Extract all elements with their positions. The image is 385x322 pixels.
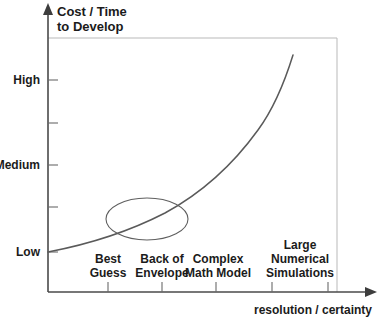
- chart-title-line2: to Develop: [57, 19, 123, 34]
- chart-title: Cost / Timeto Develop: [57, 4, 127, 34]
- y-tick-label-medium: Medium: [0, 158, 40, 172]
- highlight-ellipse-annotation: [106, 198, 188, 240]
- y-tick-label-low: Low: [0, 245, 40, 259]
- x-category-0-line2: Guess: [90, 266, 127, 280]
- x-category-1-line1: Back of: [140, 252, 183, 266]
- y-axis-arrow-icon: [43, 3, 53, 15]
- cost-time-curve: [48, 55, 293, 252]
- x-category-complex-math-model: ComplexMath Model: [180, 252, 256, 280]
- x-category-large-numerical-simulations: LargeNumericalSimulations: [258, 238, 342, 280]
- x-category-3-line3: Simulations: [266, 266, 334, 280]
- x-axis-title: resolution / certainty: [254, 303, 372, 317]
- x-category-3-line2: Numerical: [271, 252, 329, 266]
- x-category-3-line1: Large: [284, 238, 317, 252]
- x-axis-arrow-icon: [365, 287, 377, 297]
- chart-figure: Cost / Timeto Develop High Medium Low Be…: [0, 0, 385, 322]
- chart-title-line1: Cost / Time: [57, 4, 127, 19]
- x-category-0-line1: Best: [95, 252, 121, 266]
- x-category-2-line2: Math Model: [185, 266, 251, 280]
- x-category-2-line1: Complex: [193, 252, 244, 266]
- y-tick-label-high: High: [0, 73, 40, 87]
